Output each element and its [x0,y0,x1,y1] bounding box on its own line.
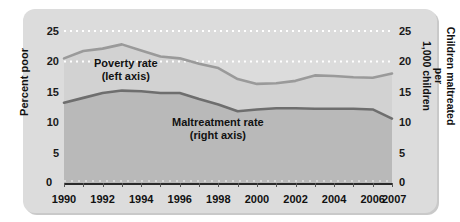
x-tick-1990 [64,183,65,187]
x-tick-1993 [122,183,123,187]
x-tick-1998 [218,183,219,187]
x-tick-2003 [315,183,316,187]
series-annotation-maltreatment-axis: (right axis) [190,129,246,141]
x-tick-2005 [353,183,354,187]
y-axis-left-title: Percent poor [18,32,30,132]
x-tick-2004 [334,183,335,187]
series-annotation-poverty-name: Poverty rate [94,57,158,69]
x-tick-1997 [199,183,200,187]
chart-figure: 510152025 Percent poor 510152025 Childre… [0,0,460,222]
x-tick-1999 [238,183,239,187]
series-annotation-maltreatment-name: Maltreatment rate [172,116,264,128]
series-annotation-maltreatment: Maltreatment rate (right axis) [172,116,264,142]
x-tick-label-2004: 2004 [322,193,346,205]
y-tick-left-15: 15 [47,86,59,98]
y-axis-left-zero: 0 [46,176,52,188]
x-tick-label-1996: 1996 [168,193,192,205]
x-axis-line [64,183,392,185]
y-tick-right-15: 15 [399,86,411,98]
x-tick-label-2000: 2000 [245,193,269,205]
y-axis-right-title-line1: Children maltreated per [433,27,457,126]
x-tick-1991 [83,183,84,187]
x-tick-label-1992: 1992 [90,193,114,205]
y-axis-right-title-line2: 1,000 children [421,41,433,111]
y-tick-left-5: 5 [53,147,59,159]
x-tick-label-1994: 1994 [129,193,153,205]
x-tick-label-2002: 2002 [283,193,307,205]
y-tick-right-25: 25 [399,25,411,37]
x-tick-2000 [257,183,258,187]
x-tick-1996 [180,183,181,187]
x-tick-label-1998: 1998 [206,193,230,205]
y-axis-right-title: Children maltreated per 1,000 children [421,21,457,131]
x-tick-2002 [296,183,297,187]
x-tick-2006 [373,183,374,187]
y-axis-left: 510152025 [34,0,59,222]
x-tick-label-2007: 2007 [382,193,406,205]
x-tick-1994 [141,183,142,187]
x-tick-1992 [103,183,104,187]
y-tick-right-10: 10 [399,116,411,128]
y-tick-right-20: 20 [399,55,411,67]
series-annotation-poverty: Poverty rate (left axis) [94,57,158,83]
x-tick-2001 [276,183,277,187]
series-annotation-poverty-axis: (left axis) [102,70,150,82]
y-axis-right-zero: 0 [399,176,405,188]
y-tick-left-25: 25 [47,25,59,37]
y-tick-left-10: 10 [47,116,59,128]
x-tick-2007 [392,183,393,187]
x-tick-label-1990: 1990 [52,193,76,205]
chart-canvas [0,0,460,222]
y-tick-right-5: 5 [399,147,405,159]
x-tick-1995 [160,183,161,187]
y-tick-left-20: 20 [47,55,59,67]
